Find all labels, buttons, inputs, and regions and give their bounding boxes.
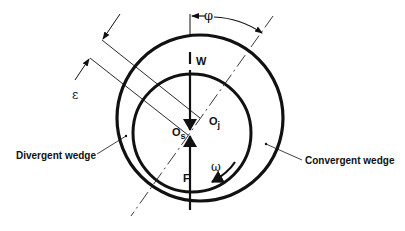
convergent-wedge-label: Convergent wedge xyxy=(305,155,395,166)
load-label: W xyxy=(196,55,207,67)
convergent-wedge-dot xyxy=(265,143,267,145)
divergent-wedge-label: Divergent wedge xyxy=(16,150,96,161)
journal-circle xyxy=(133,74,251,192)
eccentricity-arrow-2 xyxy=(75,59,89,80)
eccentricity-label: ε xyxy=(72,88,78,102)
rotation-label: ω xyxy=(211,160,221,174)
attitude-angle-arc xyxy=(214,17,262,33)
divergent-wedge-dot xyxy=(125,135,127,137)
journal-bearing-diagram: φ W F ε Os Oj ω Divergent wedge Converge… xyxy=(0,0,405,231)
eccentricity-arrow-1 xyxy=(103,14,120,39)
attitude-angle-label: φ xyxy=(204,8,213,23)
line-of-centers xyxy=(131,16,273,216)
journal-center-label: Oj xyxy=(209,115,220,130)
force-label: F xyxy=(183,172,190,184)
shaft-center-label: Os xyxy=(172,126,186,141)
